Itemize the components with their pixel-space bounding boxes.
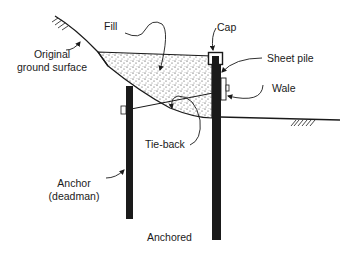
label-anchor-line1: Anchor [46,177,102,190]
fill-soil-wedge [98,52,212,118]
anchor-deadman [126,86,133,219]
diagram-caption: Anchored [147,231,192,244]
label-original-line1: Original [14,48,90,61]
anchored-sheet-pile-diagram [0,0,360,258]
label-wale: Wale [272,82,296,95]
label-sheet-pile: Sheet pile [267,52,314,65]
wale-nut [226,85,229,91]
dredge-line [220,117,340,126]
label-anchor-deadman: Anchor (deadman) [46,177,102,203]
label-cap: Cap [217,21,236,34]
label-original-line2: ground surface [14,61,90,74]
pile-top [212,56,219,65]
label-original-ground-surface: Original ground surface [14,48,90,74]
label-fill: Fill [104,20,117,33]
ground-hatch-icon [291,120,315,126]
label-anchor-line2: (deadman) [46,190,102,203]
label-tie-back: Tie-back [145,138,185,151]
wale [221,78,226,100]
sheet-pile [212,56,221,240]
anchor-plate [121,106,126,114]
